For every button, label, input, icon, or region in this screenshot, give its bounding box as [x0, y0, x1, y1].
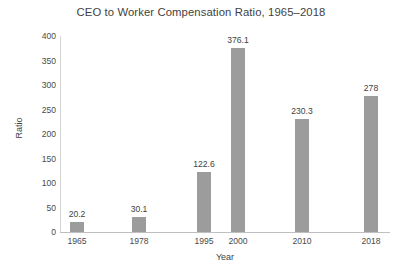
- x-axis-tick-labels: 196519781995200020102018: [60, 236, 390, 250]
- x-tick-label: 1965: [67, 236, 86, 246]
- y-tick-label: 400: [8, 31, 56, 41]
- x-tick-label: 1995: [194, 236, 213, 246]
- bar[interactable]: 278: [364, 36, 378, 232]
- bar[interactable]: 376.1: [231, 36, 245, 232]
- y-tick-label: 150: [8, 154, 56, 164]
- bar[interactable]: 230.3: [295, 36, 309, 232]
- bar[interactable]: 30.1: [132, 36, 146, 232]
- bar[interactable]: 122.6: [197, 36, 211, 232]
- y-tick-label: 250: [8, 105, 56, 115]
- bar-rect: [231, 48, 245, 232]
- bar-rect: [197, 172, 211, 232]
- y-tick-label: 350: [8, 56, 56, 66]
- bar-rect: [295, 119, 309, 232]
- bar-chart: CEO to Worker Compensation Ratio, 1965–2…: [0, 0, 402, 276]
- bar-value-label: 230.3: [291, 106, 313, 116]
- bar-value-label: 122.6: [193, 159, 215, 169]
- x-axis-line: [60, 232, 390, 233]
- chart-title: CEO to Worker Compensation Ratio, 1965–2…: [0, 6, 402, 18]
- y-tick-label: 100: [8, 178, 56, 188]
- bar-value-label: 30.1: [131, 204, 148, 214]
- y-tick-label: 200: [8, 129, 56, 139]
- y-tick-label: 50: [8, 203, 56, 213]
- y-axis-tick-labels: 050100150200250300350400: [0, 36, 56, 232]
- x-tick-label: 2018: [361, 236, 380, 246]
- bar-rect: [132, 217, 146, 232]
- bar-value-label: 20.2: [69, 209, 86, 219]
- bar[interactable]: 20.2: [70, 36, 84, 232]
- x-tick-label: 2000: [228, 236, 247, 246]
- bar-value-label: 278: [364, 83, 378, 93]
- x-tick-label: 2010: [292, 236, 311, 246]
- bar-rect: [70, 222, 84, 232]
- bars-layer: 20.230.1122.6376.1230.3278: [60, 36, 390, 232]
- bar-rect: [364, 96, 378, 232]
- x-tick-label: 1978: [129, 236, 148, 246]
- y-tick-label: 0: [8, 227, 56, 237]
- y-tick-label: 300: [8, 80, 56, 90]
- bar-value-label: 376.1: [227, 35, 249, 45]
- x-axis-label: Year: [60, 252, 390, 262]
